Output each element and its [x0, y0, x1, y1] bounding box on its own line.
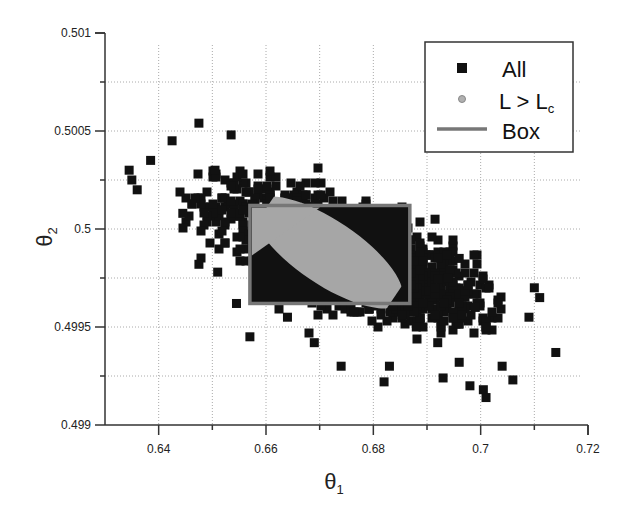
legend: All L > Lc Box	[425, 42, 573, 152]
legend-all-square-icon	[457, 63, 467, 73]
y-tick-label: 0.4995	[54, 320, 91, 334]
scatter-chart: 0.4990.49950.50.50050.5010.640.660.680.7…	[0, 0, 621, 510]
legend-all-label: All	[502, 57, 526, 82]
x-axis-title: θ1	[324, 469, 343, 497]
x-tick-label: 0.68	[362, 442, 386, 456]
x-tick-label: 0.66	[254, 442, 278, 456]
x-tick-label: 0.72	[576, 442, 600, 456]
x-tick-label: 0.7	[472, 442, 489, 456]
legend-l-gt-lc-circle-icon	[459, 96, 466, 103]
legend-box-label: Box	[502, 119, 540, 144]
x-tick-label: 0.64	[147, 442, 171, 456]
y-tick-label: 0.5005	[54, 124, 91, 138]
y-axis-title: θ2	[32, 227, 60, 246]
legend-l-gt-lc-label: L > Lc	[499, 89, 555, 116]
y-tick-label: 0.5	[74, 222, 91, 236]
y-tick-label: 0.501	[61, 26, 91, 40]
y-tick-label: 0.499	[61, 418, 91, 432]
